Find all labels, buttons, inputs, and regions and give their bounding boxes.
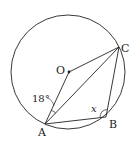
point-label-a: A — [37, 126, 47, 139]
angle-label-x: x — [91, 103, 97, 114]
angle-label-18: 18° — [32, 93, 50, 104]
segment-ab — [45, 117, 106, 124]
point-label-b: B — [109, 118, 117, 131]
segment-oc — [69, 47, 119, 72]
segment-bc — [106, 47, 119, 117]
point-label-c: C — [121, 42, 129, 55]
geometry-diagram: O C A B 18° x — [0, 0, 138, 143]
angle-arc-oac — [51, 111, 55, 114]
center-point-o — [68, 71, 71, 74]
point-label-o: O — [56, 64, 65, 77]
